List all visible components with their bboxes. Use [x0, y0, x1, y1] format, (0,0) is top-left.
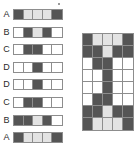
matrix-cell: [93, 94, 103, 105]
bar-row: B: [0, 26, 72, 39]
bar-cell: [52, 116, 62, 125]
bar: [13, 132, 63, 143]
bar-row-label: C: [0, 97, 13, 108]
bar-cell: [24, 133, 34, 142]
matrix-cell: [123, 82, 133, 93]
matrix-cell: [103, 58, 113, 69]
matrix-cell: [83, 106, 93, 117]
bar-cell: [43, 116, 53, 125]
matrix-cell: [123, 58, 133, 69]
matrix-row: [83, 58, 133, 70]
bar-cell: [43, 28, 53, 37]
matrix-cell: [113, 118, 123, 130]
matrix-cell: [123, 106, 133, 117]
bar-cell: [33, 80, 43, 89]
matrix-cell: [123, 118, 133, 130]
bar-cell: [52, 80, 62, 89]
bar-cell: [14, 98, 24, 107]
matrix-cell: [113, 70, 123, 81]
bar: [13, 79, 63, 90]
matrix-row: [83, 118, 133, 130]
matrix-cell: [123, 94, 133, 105]
bar-cell: [24, 80, 34, 89]
bar-cell: [24, 98, 34, 107]
bar-row-label: B: [0, 27, 13, 38]
bar-row-label: A: [0, 9, 13, 20]
bar-cell: [14, 133, 24, 142]
bar-cell: [14, 63, 24, 72]
matrix-cell: [123, 34, 133, 45]
bar-cell: [14, 10, 24, 19]
matrix-cell: [103, 82, 113, 93]
bar-cell: [33, 63, 43, 72]
bar: [13, 9, 63, 20]
bar-cell: [33, 133, 43, 142]
bar: [13, 44, 63, 55]
bar-cell: [14, 80, 24, 89]
bar-cell: [24, 116, 34, 125]
matrix-cell: [93, 118, 103, 130]
matrix-cell: [103, 46, 113, 57]
bar-cell: [43, 10, 53, 19]
matrix-cell: [83, 94, 93, 105]
figure-root: ABCDDCBA: [0, 0, 140, 168]
bar-cell: [14, 116, 24, 125]
matrix-row: [83, 94, 133, 106]
bar-row-label: D: [0, 79, 13, 90]
bar-row-label: A: [0, 132, 13, 143]
bar: [13, 27, 63, 38]
matrix-cell: [113, 106, 123, 117]
matrix-cell: [113, 58, 123, 69]
matrix-row: [83, 34, 133, 46]
matrix-cell: [103, 106, 113, 117]
bar-cell: [52, 63, 62, 72]
matrix-cell: [113, 82, 123, 93]
matrix-cell: [113, 34, 123, 45]
bar-row: B: [0, 114, 72, 127]
bar-cell: [14, 28, 24, 37]
bar-cell: [24, 63, 34, 72]
bar-cell: [24, 28, 34, 37]
bar-cell: [43, 80, 53, 89]
bar-cell: [33, 45, 43, 54]
matrix-row: [83, 46, 133, 58]
matrix-cell: [83, 70, 93, 81]
bar: [13, 97, 63, 108]
bar-cell: [33, 98, 43, 107]
matrix-cell: [83, 34, 93, 45]
matrix-cell: [113, 94, 123, 105]
bar-cell: [43, 45, 53, 54]
labelled-bar-list: ABCDDCBA: [0, 8, 72, 149]
speck-artifact: [58, 3, 60, 5]
bar-row: A: [0, 8, 72, 21]
bar-row: C: [0, 96, 72, 109]
matrix-cell: [113, 46, 123, 57]
matrix-cell: [103, 34, 113, 45]
matrix-cell: [103, 70, 113, 81]
matrix-cell: [93, 106, 103, 117]
matrix-cell: [93, 58, 103, 69]
bar-cell: [52, 45, 62, 54]
bar-cell: [52, 28, 62, 37]
bar-row: A: [0, 131, 72, 144]
matrix-cell: [103, 94, 113, 105]
bar-cell: [33, 116, 43, 125]
bar-row-label: C: [0, 44, 13, 55]
matrix-cell: [93, 82, 103, 93]
bar: [13, 115, 63, 126]
matrix-cell: [93, 46, 103, 57]
stacked-matrix: [82, 33, 134, 131]
matrix-cell: [83, 58, 93, 69]
bar-row-label: B: [0, 115, 13, 126]
bar-cell: [24, 10, 34, 19]
bar-row: D: [0, 78, 72, 91]
matrix-row: [83, 106, 133, 118]
bar-cell: [33, 10, 43, 19]
matrix-cell: [103, 118, 113, 130]
matrix-row: [83, 82, 133, 94]
bar-cell: [52, 98, 62, 107]
bar-row: D: [0, 61, 72, 74]
bar-cell: [43, 63, 53, 72]
matrix-cell: [83, 82, 93, 93]
matrix-cell: [123, 70, 133, 81]
